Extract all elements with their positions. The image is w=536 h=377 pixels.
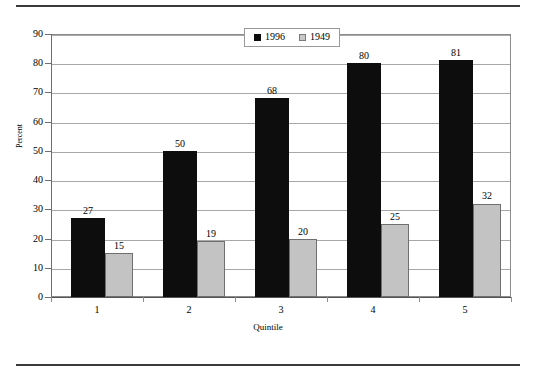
y-axis-title: Percent [16,124,24,148]
bar-value-label-1949-q2: 19 [189,228,233,239]
x-axis-tick [235,297,236,302]
bar-chart-figure: 0102030405060708090 Percent 271550196820… [0,0,536,377]
bar-1949-q3 [289,239,317,297]
y-axis-tick-labels: 0102030405060708090 [0,34,43,297]
bar-value-label-1996-q5: 81 [434,47,478,58]
bar-value-label-1996-q1: 27 [66,205,110,216]
gray-square-icon [299,34,306,41]
bar-value-label-1949-q4: 25 [373,211,417,222]
bar-value-label-1996-q4: 80 [342,50,386,61]
bar-1996-q3 [255,98,289,297]
bar-1949-q4 [381,224,409,297]
bar-value-label-1996-q3: 68 [250,85,294,96]
bar-1996-q2 [163,151,197,297]
bar-1996-q1 [71,218,105,297]
bar-1949-q5 [473,204,501,298]
x-axis-tick [419,297,420,302]
legend-entry-1996: 1996 [254,32,285,42]
y-axis-tick-label: 20 [3,234,43,244]
black-square-icon [254,34,261,41]
y-axis-tick-label: 10 [3,263,43,273]
y-axis-tick-label: 90 [3,29,43,39]
x-axis-title: Quintile [0,322,536,333]
bar-1949-q2 [197,241,225,297]
x-axis-tick [143,297,144,302]
x-axis-tick-label-4: 4 [343,304,403,316]
legend-entry-1949: 1949 [299,32,330,42]
y-axis-tick-label: 80 [3,58,43,68]
y-axis-tick-label: 40 [3,175,43,185]
legend-label: 1949 [310,32,330,42]
bar-1949-q1 [105,253,133,297]
bar-1996-q5 [439,60,473,297]
page-rule-bottom [16,364,520,366]
bar-1996-q4 [347,63,381,297]
x-axis-tick [327,297,328,302]
x-axis-line [51,297,511,298]
x-axis-tick-label-5: 5 [435,304,495,316]
chart-legend: 19961949 [244,28,340,47]
x-axis-tick-label-2: 2 [159,304,219,316]
x-axis-tick [51,297,52,302]
page-rule-top [16,5,520,7]
y-axis-tick-label: 70 [3,87,43,97]
bar-value-label-1949-q5: 32 [465,190,509,201]
bar-value-label-1996-q2: 50 [158,138,202,149]
y-axis-tick-label: 0 [3,292,43,302]
x-axis-tick-label-1: 1 [67,304,127,316]
x-axis-tick-label-3: 3 [251,304,311,316]
bar-value-label-1949-q1: 15 [97,240,141,251]
y-axis-tick-label: 30 [3,204,43,214]
x-axis-tick [511,297,512,302]
legend-label: 1996 [265,32,285,42]
bar-value-label-1949-q3: 20 [281,226,325,237]
bars-layer: 27155019682080258132 [51,34,511,297]
